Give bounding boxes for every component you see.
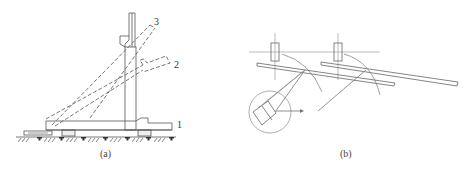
caption-a: (a) (100, 148, 111, 159)
arc-left (282, 54, 322, 92)
column-bracket (120, 36, 129, 47)
figure-b (249, 33, 458, 133)
arc-right (344, 54, 380, 95)
detail-circle (249, 91, 291, 133)
pad-right (138, 130, 151, 136)
tool-head (253, 101, 276, 125)
label-3: 3 (154, 16, 159, 27)
dashed-position-2 (46, 56, 170, 126)
diagram-canvas (0, 0, 464, 170)
pad-left (62, 130, 75, 136)
base-slab (46, 118, 172, 130)
label-1: 1 (177, 119, 182, 130)
support-markers (37, 137, 174, 141)
label-2: 2 (174, 59, 179, 70)
bar-left (257, 63, 395, 86)
vertical-column (125, 47, 136, 130)
figure-a (16, 13, 176, 142)
caption-b: (b) (340, 148, 352, 159)
dashed-position-3 (52, 25, 155, 125)
